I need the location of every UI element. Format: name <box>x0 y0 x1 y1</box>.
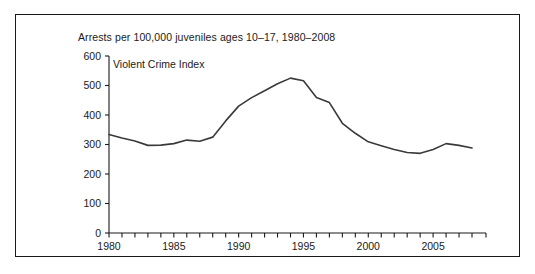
x-axis-tick-label: 2000 <box>357 240 381 252</box>
x-axis-tick-label: 1985 <box>162 240 186 252</box>
y-axis-tick-label: 500 <box>83 79 101 91</box>
y-axis-tick-label: 200 <box>83 168 101 180</box>
x-axis-tick-label: 1990 <box>227 240 251 252</box>
data-series-group <box>109 78 472 153</box>
y-axis-tick-label: 0 <box>95 227 101 239</box>
series-line-violent-crime-index <box>109 78 472 153</box>
chart-figure-frame: Arrests per 100,000 juveniles ages 10–17… <box>15 14 520 257</box>
x-axis-tick-label: 1995 <box>292 240 316 252</box>
y-axis-tick-label: 600 <box>83 50 101 62</box>
x-axis-tick-label: 2005 <box>421 240 445 252</box>
x-axis: 198019851990199520002005 <box>97 233 486 252</box>
x-axis-tick-label: 1980 <box>97 240 121 252</box>
y-axis-tick-label: 300 <box>83 138 101 150</box>
chart-plot-area: 0100200300400500600 19801985199019952000… <box>16 15 519 256</box>
y-axis: 0100200300400500600 <box>83 50 109 239</box>
y-axis-tick-label: 400 <box>83 109 101 121</box>
y-axis-tick-label: 100 <box>83 197 101 209</box>
